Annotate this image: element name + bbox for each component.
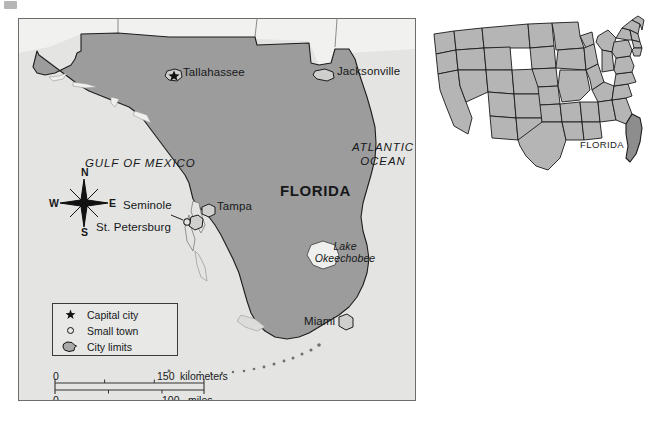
compass-label-south: S [81,227,88,238]
state-nv-id [456,48,486,70]
page-root: Tallahassee Jacksonville Tampa Seminole … [0,0,650,426]
main-map-frame: Tallahassee Jacksonville Tampa Seminole … [18,18,416,401]
state-ut [486,70,514,94]
city-symbol-tallahassee [165,69,182,81]
scale-km-unit: kilometers [180,371,228,382]
legend-label-city-limits: City limits [87,341,132,353]
us-locator-inset: FLORIDA [432,14,646,194]
state-sc [612,84,632,100]
united-states-map-graphic: FLORIDA [432,14,646,194]
state-ks [538,86,560,105]
state-va [614,56,634,74]
state-mt [482,24,530,48]
water-label-atlantic-ocean: ATLANTIC OCEAN [352,142,414,167]
inset-florida-highlight [626,114,642,162]
state-nd [528,23,554,48]
atlantic-line-1: ATLANTIC [352,142,414,154]
map-scale-bar: 0 150 kilometers 0 100 miles [52,371,252,401]
state-label-florida: FLORIDA [280,183,351,198]
city-label-seminole: Seminole [123,200,172,212]
city-label-miami: Miami [304,316,335,328]
state-id-n [454,28,484,50]
inset-florida-label: FLORIDA [580,139,624,150]
city-label-tallahassee: Tallahassee [183,67,245,79]
state-mo [558,70,590,102]
city-label-jacksonville: Jacksonville [337,66,400,78]
state-nj-de [632,48,642,56]
map-legend: Capital city Small town City limits [52,303,178,356]
star-icon [53,309,87,320]
state-wv-md [612,40,632,58]
state-ar [560,102,582,122]
state-nm [514,94,542,118]
legend-label-capital-city: Capital city [87,309,138,321]
state-la [562,122,584,140]
lake-line-1: Lake [310,241,380,253]
open-circle-icon [53,326,87,335]
city-symbol-miami [339,314,353,330]
state-ms [580,102,600,122]
scan-artifact-icon [4,1,17,9]
state-mn [552,22,584,50]
state-ne-small-2 [632,40,642,48]
state-ok [540,104,562,122]
state-az [488,92,516,118]
legend-item-city-limits: City limits [53,338,177,355]
water-label-gulf-of-mexico: GULF OF MEXICO [85,158,196,170]
city-label-tampa: Tampa [217,201,252,213]
scale-km-zero: 0 [53,371,59,382]
city-symbol-st-petersburg [189,215,203,230]
state-in-oh [602,50,614,72]
scale-mi-zero: 0 [53,395,59,401]
scale-mi-max: 100 [162,395,180,401]
legend-item-capital-city: Capital city [53,306,177,323]
state-ia [556,48,586,70]
state-az-s [490,116,518,140]
legend-item-small-town: Small town [53,322,177,339]
city-label-st-petersburg: St. Petersburg [96,222,171,234]
state-wy [484,47,512,70]
lake-line-2: Okeechobee [310,253,380,265]
water-label-lake-okeechobee: Lake Okeechobee [310,241,380,265]
legend-label-small-town: Small town [87,325,138,337]
scale-km-max: 150 [157,371,175,382]
scale-mi-unit: miles [188,395,213,401]
state-la-e [582,122,602,140]
compass-label-west: W [49,198,59,209]
city-symbol-tampa [202,204,215,217]
atlantic-line-2: OCEAN [352,156,414,168]
city-limits-polygon-icon [53,341,87,353]
compass-label-north: N [81,167,89,178]
compass-label-east: E [109,198,116,209]
state-sd [530,46,556,69]
